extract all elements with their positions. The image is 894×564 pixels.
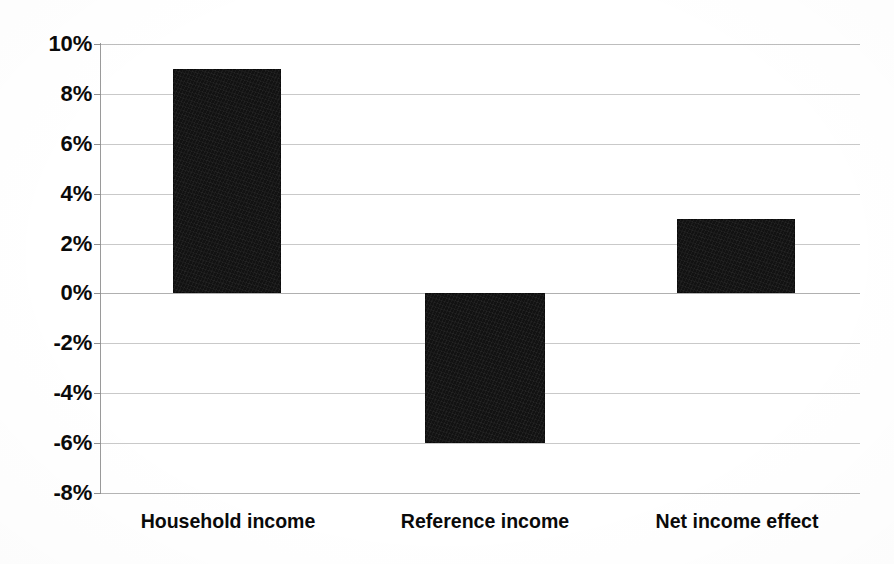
- y-tick-0: [94, 293, 101, 294]
- y-tick-label-minus-4: -4%: [0, 382, 92, 404]
- gridline-minus-8: [100, 493, 860, 494]
- y-tick-label-10: 10%: [0, 33, 92, 55]
- y-tick-8: [94, 94, 101, 95]
- y-tick-label-8: 8%: [0, 83, 92, 105]
- y-axis-tick-labels: 10% 8% 6% 4% 2% 0% -2% -4% -6% -8%: [0, 0, 92, 564]
- y-tick-minus-8: [94, 493, 101, 494]
- y-tick-minus-4: [94, 393, 101, 394]
- y-tick-label-minus-6: -6%: [0, 432, 92, 454]
- y-tick-label-0: 0%: [0, 282, 92, 304]
- bar-reference-income: [425, 293, 545, 443]
- bar-chart-figure: 10% 8% 6% 4% 2% 0% -2% -4% -6% -8% House…: [0, 0, 894, 564]
- x-axis-category-labels: Household income Reference income Net in…: [0, 510, 894, 550]
- y-tick-label-minus-8: -8%: [0, 482, 92, 504]
- gridline-minus-6: [100, 443, 860, 444]
- y-tick-label-6: 6%: [0, 133, 92, 155]
- y-tick-minus-6: [94, 443, 101, 444]
- y-axis-line: [100, 43, 101, 494]
- y-tick-6: [94, 144, 101, 145]
- y-tick-label-2: 2%: [0, 233, 92, 255]
- y-tick-2: [94, 244, 101, 245]
- y-tick-label-minus-2: -2%: [0, 332, 92, 354]
- y-tick-4: [94, 194, 101, 195]
- x-category-label-household-income: Household income: [121, 510, 335, 531]
- x-category-label-net-income-effect: Net income effect: [630, 510, 844, 531]
- y-tick-label-4: 4%: [0, 183, 92, 205]
- gridline-10: [100, 44, 860, 45]
- y-tick-10: [94, 44, 101, 45]
- x-category-label-reference-income: Reference income: [378, 510, 592, 531]
- bar-net-income-effect: [677, 219, 795, 294]
- bar-household-income: [173, 69, 281, 293]
- plot-area: [100, 44, 860, 493]
- y-tick-minus-2: [94, 343, 101, 344]
